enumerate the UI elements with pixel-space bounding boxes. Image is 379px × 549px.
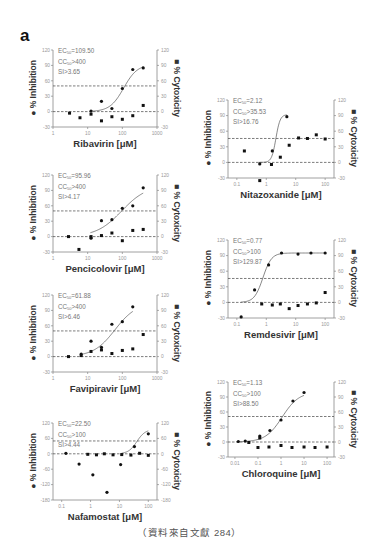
y-axis-label-left: ● % Inhibition [203,374,213,464]
svg-text:100: 100 [321,182,329,187]
x-axis-label: Nitazoxanide [μM] [228,189,334,200]
svg-text:60: 60 [161,204,167,209]
chart-stats: EC50=22.50CC50>100SI>4.44 [58,420,91,450]
svg-text:90: 90 [220,113,226,118]
svg-text:0: 0 [161,109,164,114]
svg-text:120: 120 [42,293,50,298]
svg-text:-30: -30 [43,125,50,130]
svg-text:1: 1 [265,322,268,327]
chart-ribavirin: -30-30003030606090901201201101001000EC50… [0,40,190,150]
svg-text:-30: -30 [338,455,345,460]
svg-text:30: 30 [45,94,51,99]
svg-text:30: 30 [161,339,167,344]
svg-text:0: 0 [222,300,225,305]
y-axis-label-left: ● % Inhibition [28,288,38,378]
svg-text:0.01: 0.01 [230,461,240,466]
chart-nitazoxanide: -30-30003030606090901201200.1110100EC50=… [190,90,379,200]
y-axis-label-right: ■ % Cytoxicity [349,233,359,323]
svg-text:90: 90 [161,188,167,193]
svg-text:0: 0 [338,440,341,445]
y-axis-label-right: ■ % Cytoxicity [172,288,182,378]
svg-text:120: 120 [217,98,225,103]
svg-text:120: 120 [338,238,346,243]
svg-text:10: 10 [293,322,299,327]
svg-text:-30: -30 [218,455,225,460]
svg-text:1: 1 [265,182,268,187]
svg-text:0: 0 [47,109,50,114]
y-axis-label-right: ■ % Cytoxicity [349,374,359,464]
svg-text:-60: -60 [161,467,168,472]
source-citation: （資料來自文獻 284） [0,525,379,539]
chart-stats: EC50=109.50CC50>400SI>3.65 [58,47,94,77]
chart-stats: EC50=0.77CC50>100SI>129.87 [233,237,262,267]
chart-stats: EC50=61.88CC50>400SI>6.46 [58,292,91,322]
x-axis-label: Nafamostat [μM] [53,511,157,522]
svg-text:-30: -30 [161,370,168,375]
svg-text:0.1: 0.1 [234,322,241,327]
svg-text:100: 100 [118,256,126,261]
svg-text:90: 90 [45,308,51,313]
svg-text:120: 120 [338,98,346,103]
chart-stats: EC50=1.13CC50>100SI>88.50 [233,379,262,409]
svg-text:120: 120 [161,173,169,178]
svg-text:0: 0 [47,452,50,457]
chart-remdesivir: -30-30003030606090901201200.1110100EC50=… [190,230,379,340]
svg-text:30: 30 [220,425,226,430]
svg-text:90: 90 [338,253,344,258]
x-axis-label: Pencicolovir [μM] [53,263,157,274]
svg-text:-30: -30 [218,176,225,181]
svg-text:1: 1 [52,131,55,136]
chart-stats: EC50=95.96CC50>400SI>4.17 [58,172,91,202]
svg-text:90: 90 [161,63,167,68]
svg-text:0: 0 [161,234,164,239]
svg-text:1: 1 [52,376,55,381]
svg-text:0: 0 [47,234,50,239]
svg-text:30: 30 [161,94,167,99]
svg-text:0: 0 [161,452,164,457]
svg-text:120: 120 [217,380,225,385]
svg-text:90: 90 [220,395,226,400]
svg-text:-120: -120 [161,482,171,487]
svg-text:-30: -30 [338,176,345,181]
svg-text:60: 60 [45,204,51,209]
svg-text:100: 100 [144,504,152,509]
svg-text:120: 120 [161,48,169,53]
svg-text:1000: 1000 [152,131,163,136]
svg-text:120: 120 [42,421,50,426]
svg-text:1000: 1000 [152,256,163,261]
svg-text:1000: 1000 [152,376,163,381]
chart-chloroquine: -30-30003030606090901201200.010.1110100E… [190,370,379,480]
svg-text:90: 90 [161,308,167,313]
svg-text:60: 60 [45,79,51,84]
svg-text:10: 10 [293,182,299,187]
svg-text:30: 30 [338,425,344,430]
x-axis-label: Remdesivir [μM] [228,329,334,340]
svg-text:60: 60 [45,324,51,329]
svg-text:-180: -180 [161,498,171,503]
svg-text:60: 60 [220,410,226,415]
svg-text:90: 90 [45,63,51,68]
svg-text:-60: -60 [43,467,50,472]
y-axis-label-right: ■ % Cytoxicity [349,93,359,183]
svg-text:-30: -30 [43,370,50,375]
x-axis-label: Chloroquine [μM] [228,468,334,479]
svg-text:60: 60 [220,269,226,274]
svg-text:60: 60 [338,410,344,415]
svg-text:100: 100 [118,376,126,381]
svg-text:60: 60 [161,79,167,84]
svg-text:30: 30 [220,145,226,150]
svg-text:90: 90 [45,188,51,193]
svg-text:-30: -30 [218,316,225,321]
svg-text:10: 10 [117,504,123,509]
svg-text:0: 0 [222,440,225,445]
svg-text:30: 30 [338,145,344,150]
svg-text:0.1: 0.1 [58,504,65,509]
y-axis-label-left: ● % Inhibition [203,233,213,323]
svg-text:90: 90 [338,395,344,400]
svg-text:-30: -30 [161,250,168,255]
y-axis-label-left: ● % Inhibition [28,416,38,506]
svg-text:100: 100 [321,322,329,327]
svg-text:60: 60 [338,269,344,274]
svg-text:120: 120 [42,173,50,178]
svg-text:-180: -180 [40,498,50,503]
